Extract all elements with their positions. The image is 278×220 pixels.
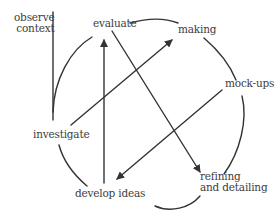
node-evaluate: evaluate	[93, 18, 137, 29]
node-mock-ups: mock-ups	[225, 78, 274, 89]
arc-develop-to-investigate	[59, 145, 87, 186]
arrow-mockups-to-develop	[117, 90, 222, 179]
arrow-evaluate-to-refining	[112, 31, 200, 172]
design-process-diagram: observe context evaluate making mock-ups…	[0, 0, 278, 220]
arc-investigate-to-evaluate	[53, 37, 92, 112]
arc-evaluate-to-making	[130, 19, 178, 23]
context-label: context	[14, 23, 54, 34]
and-detailing-label: and detailing	[200, 182, 267, 193]
node-investigate: investigate	[33, 129, 89, 140]
arc-making-to-mockups	[204, 38, 236, 80]
node-refining-and-detailing: refining and detailing	[200, 171, 267, 193]
node-develop-ideas: develop ideas	[75, 188, 145, 199]
node-making: making	[178, 24, 216, 35]
arc-mockups-to-refining	[224, 96, 244, 174]
arrow-investigate-to-making	[71, 40, 172, 125]
node-observe-context: observe context	[14, 12, 54, 34]
arc-refining-to-develop	[155, 196, 200, 209]
